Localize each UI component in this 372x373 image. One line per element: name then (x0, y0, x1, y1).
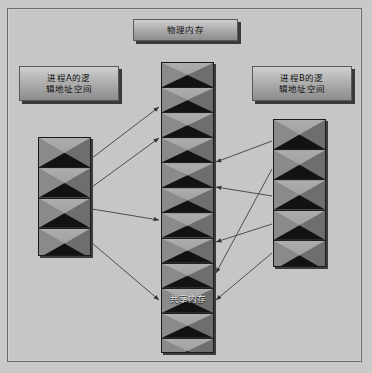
process-b-cell-2 (274, 150, 325, 180)
diagram-canvas: 共享内存 物理内存 进程A的逻 辑地址空间 进程B的逻 辑地址空间 (0, 0, 372, 373)
process-a-label-line1: 进程A的逻 (47, 73, 90, 84)
physical-memory-cell-9 (162, 264, 213, 289)
physical-memory-block (161, 62, 214, 353)
process-a-cell-3 (39, 199, 90, 229)
physical-memory-cell-10 (162, 289, 213, 314)
physical-memory-cell-11 (162, 314, 213, 339)
process-a-cell-4 (39, 229, 90, 256)
process-a-cell-2 (39, 168, 90, 198)
physical-memory-cell-4 (162, 138, 213, 163)
process-b-label-line2: 辑地址空间 (279, 84, 326, 95)
physical-memory-cell-6 (162, 188, 213, 213)
process-b-cell-4 (274, 211, 325, 241)
process-a-memory-block (38, 137, 91, 256)
process-b-memory-block (273, 119, 326, 267)
process-b-label-line1: 进程B的逻 (280, 73, 323, 84)
physical-memory-cell-7 (162, 213, 213, 238)
physical-memory-cell-8 (162, 239, 213, 264)
physical-memory-label-text: 物理内存 (167, 25, 204, 36)
process-b-label-box: 进程B的逻 辑地址空间 (252, 66, 352, 101)
physical-memory-cell-5 (162, 163, 213, 188)
physical-memory-label-box: 物理内存 (133, 19, 238, 41)
physical-memory-cell-1 (162, 63, 213, 88)
physical-memory-cell-2 (162, 88, 213, 113)
process-b-cell-3 (274, 180, 325, 210)
process-b-cell-5 (274, 241, 325, 267)
physical-memory-cell-3 (162, 113, 213, 138)
process-a-cell-1 (39, 138, 90, 168)
process-a-label-box: 进程A的逻 辑地址空间 (19, 66, 119, 101)
process-a-label-line2: 辑地址空间 (46, 84, 93, 95)
physical-memory-cell-12 (162, 339, 213, 353)
process-b-cell-1 (274, 120, 325, 150)
